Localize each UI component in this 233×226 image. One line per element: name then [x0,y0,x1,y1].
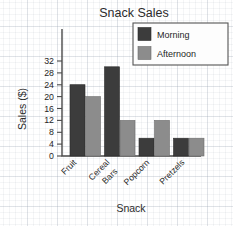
category-label-pretzels: Pretzels [157,157,186,186]
bar-group-pretzels [174,138,205,156]
legend-label-morning: Morning [157,30,190,40]
y-tick-label-28: 28 [44,68,54,78]
bar-group-popcorn [139,120,170,156]
snack-sales-bar-chart: Snack Sales Sales ($) Snack 0 4 8 12 16 … [0,0,233,226]
bar-group-cereal-bars [105,67,136,156]
bar-afternoon-popcorn [155,120,170,156]
bar-morning-fruit [70,85,85,156]
y-tick-label-4: 4 [49,139,54,149]
bar-morning-cereal-bars [105,67,120,156]
bar-afternoon-cereal-bars [120,120,135,156]
legend-item-morning[interactable]: Morning [138,28,190,41]
y-tick-label-12: 12 [44,115,54,125]
y-axis-label: Sales ($) [16,88,28,130]
legend-swatch-afternoon [138,47,151,60]
chart-legend[interactable]: Morning Afternoon [133,23,228,65]
bar-group-fruit [70,85,101,156]
legend-item-afternoon[interactable]: Afternoon [138,47,196,60]
y-axis-ticks: 0 4 8 12 16 20 24 28 32 [44,56,62,161]
y-tick-label-32: 32 [44,56,54,66]
category-label-popcorn: Popcorn [122,157,152,187]
bar-morning-pretzels [174,138,189,156]
chart-title: Snack Sales [99,6,168,20]
bar-afternoon-fruit [86,97,101,156]
y-tick-label-16: 16 [44,104,54,114]
category-label-fruit: Fruit [59,157,79,177]
bar-afternoon-pretzels [189,138,204,156]
y-tick-label-24: 24 [44,80,54,90]
bar-morning-popcorn [139,138,154,156]
legend-swatch-morning [138,28,151,41]
x-axis-label: Snack [116,202,146,214]
y-tick-label-8: 8 [49,127,54,137]
y-tick-label-0: 0 [49,151,54,161]
x-axis-category-labels: Fruit Cereal Bars Popcorn Pretzels [59,157,186,187]
legend-label-afternoon: Afternoon [157,49,196,59]
y-tick-label-20: 20 [44,92,54,102]
